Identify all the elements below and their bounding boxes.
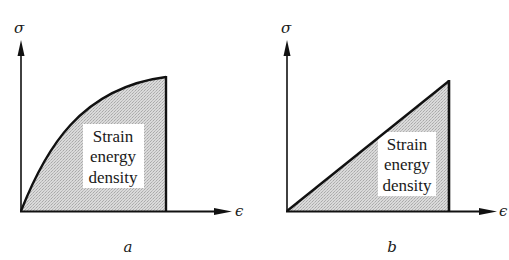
x-axis-arrow-icon-b [479, 208, 497, 215]
panel-label-b: b [387, 238, 397, 256]
panel-b: σ ϵ Strain energy density b [281, 19, 508, 256]
x-axis-label-b: ϵ [499, 202, 508, 220]
y-axis-label-b: σ [281, 19, 292, 37]
region-label-b-line2: energy [384, 155, 430, 174]
y-axis-arrow-icon-b [284, 40, 291, 56]
panel-a: σ ϵ Strain energy density a [14, 19, 244, 256]
x-axis-label-a: ϵ [235, 202, 244, 220]
x-axis-arrow-icon-a [214, 208, 232, 215]
region-label-b-line3: density [382, 176, 432, 195]
panel-label-a: a [124, 238, 133, 256]
region-label-a-line2: energy [90, 147, 136, 166]
y-axis-label-a: σ [14, 19, 25, 37]
region-label-b-line1: Strain [387, 135, 428, 154]
region-label-a-line3: density [88, 168, 138, 187]
y-axis-arrow-icon-a [18, 40, 25, 56]
strain-energy-figure: σ ϵ Strain energy density a σ ϵ Strain e… [0, 0, 509, 260]
region-label-a-line1: Strain [93, 127, 134, 146]
